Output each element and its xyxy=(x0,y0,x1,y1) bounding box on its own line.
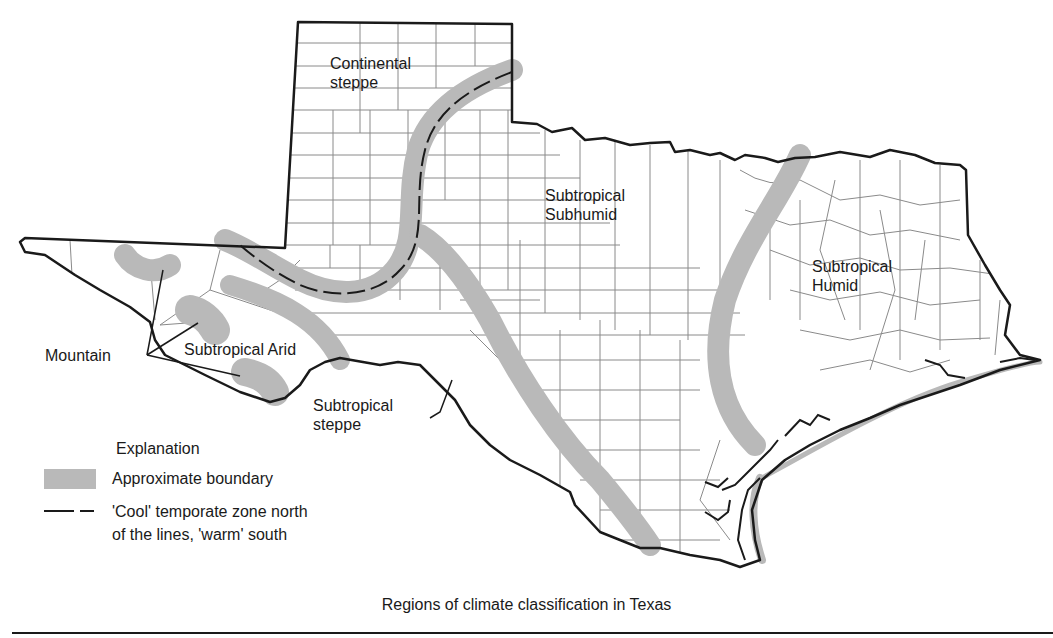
region-label-subtropical-arid: Subtropical Arid xyxy=(184,340,296,359)
region-label-line: Humid xyxy=(812,276,892,295)
region-label-line: Subtropical xyxy=(545,186,625,205)
region-label-line: Subtropical xyxy=(313,396,393,415)
gray-band-swatch-icon xyxy=(44,469,96,489)
legend-title: Explanation xyxy=(116,440,200,458)
region-label-line: steppe xyxy=(330,73,411,92)
region-label-subtropical-steppe: Subtropical steppe xyxy=(313,396,393,434)
region-label-line: Mountain xyxy=(45,346,111,365)
region-label-subtropical-humid: Subtropical Humid xyxy=(812,257,892,295)
region-label-subtropical-subhumid: Subtropical Subhumid xyxy=(545,186,625,224)
region-label-line: Continental xyxy=(330,54,411,73)
climate-map-figure: Continental steppe Subtropical Subhumid … xyxy=(0,0,1053,638)
legend-label: 'Cool' temporate zone north xyxy=(112,500,308,523)
region-label-line: steppe xyxy=(313,415,393,434)
legend-item-approximate-boundary: Approximate boundary xyxy=(44,467,273,490)
region-label-line: Subtropical xyxy=(812,257,892,276)
legend-label: Approximate boundary xyxy=(112,467,273,490)
figure-caption: Regions of climate classification in Tex… xyxy=(0,596,1053,614)
bottom-rule-divider xyxy=(12,632,1053,634)
region-label-line: Subhumid xyxy=(545,205,625,224)
region-label-line: Subtropical Arid xyxy=(184,340,296,359)
region-label-mountain: Mountain xyxy=(45,346,111,365)
dashed-line-swatch-icon xyxy=(44,500,96,520)
legend-item-cool-warm-line: 'Cool' temporate zone north of the lines… xyxy=(44,500,308,546)
legend-label-line2: of the lines, 'warm' south xyxy=(112,523,308,546)
region-label-continental-steppe: Continental steppe xyxy=(330,54,411,92)
